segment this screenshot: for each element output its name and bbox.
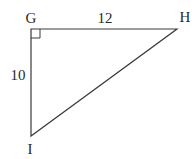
vertex-label-g: G <box>26 10 37 26</box>
vertex-label-i: I <box>28 141 33 157</box>
side-label-gi: 10 <box>11 67 26 83</box>
right-angle-marker <box>31 29 40 38</box>
vertex-label-h: H <box>180 9 191 25</box>
triangle-diagram: G H I 12 10 <box>0 0 196 159</box>
side-label-gh: 12 <box>98 10 113 26</box>
triangle-ghi <box>31 29 177 136</box>
